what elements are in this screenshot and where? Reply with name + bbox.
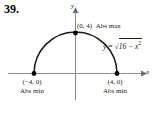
abs-min-left-extremum: Abs min: [20, 87, 44, 96]
figure-container: 39. y x (0, 4) Abs max (−4, 0) Abs min (…: [0, 0, 155, 130]
radicand: 16 − x2: [119, 38, 142, 51]
annotation-abs-min-right: (4, 0) Abs min: [103, 78, 127, 95]
semicircle-plot: [0, 0, 155, 130]
radicand-exponent: 2: [138, 40, 141, 46]
y-axis-label: y: [71, 2, 74, 10]
point-abs-max: [73, 31, 78, 36]
equation-lhs: y: [103, 42, 106, 51]
abs-min-right-extremum: Abs min: [103, 87, 127, 96]
curve-equation-label: y=√16 − x2: [103, 38, 142, 51]
annotation-abs-max: (0, 4) Abs max: [77, 22, 121, 31]
equation-equals: =: [108, 42, 112, 51]
abs-min-right-coordinate: (4, 0): [103, 78, 127, 87]
abs-max-extremum: Abs max: [96, 22, 121, 30]
radicand-expression: 16 − x: [119, 42, 139, 51]
abs-max-coordinate: (0, 4): [77, 22, 92, 30]
abs-min-left-coordinate: (−4, 0): [20, 78, 44, 87]
point-abs-min-right: [115, 71, 120, 76]
radical-sign: √16 − x2: [115, 38, 143, 51]
annotation-abs-min-left: (−4, 0) Abs min: [20, 78, 44, 95]
x-axis-label: x: [146, 68, 149, 76]
point-abs-min-left: [32, 71, 37, 76]
